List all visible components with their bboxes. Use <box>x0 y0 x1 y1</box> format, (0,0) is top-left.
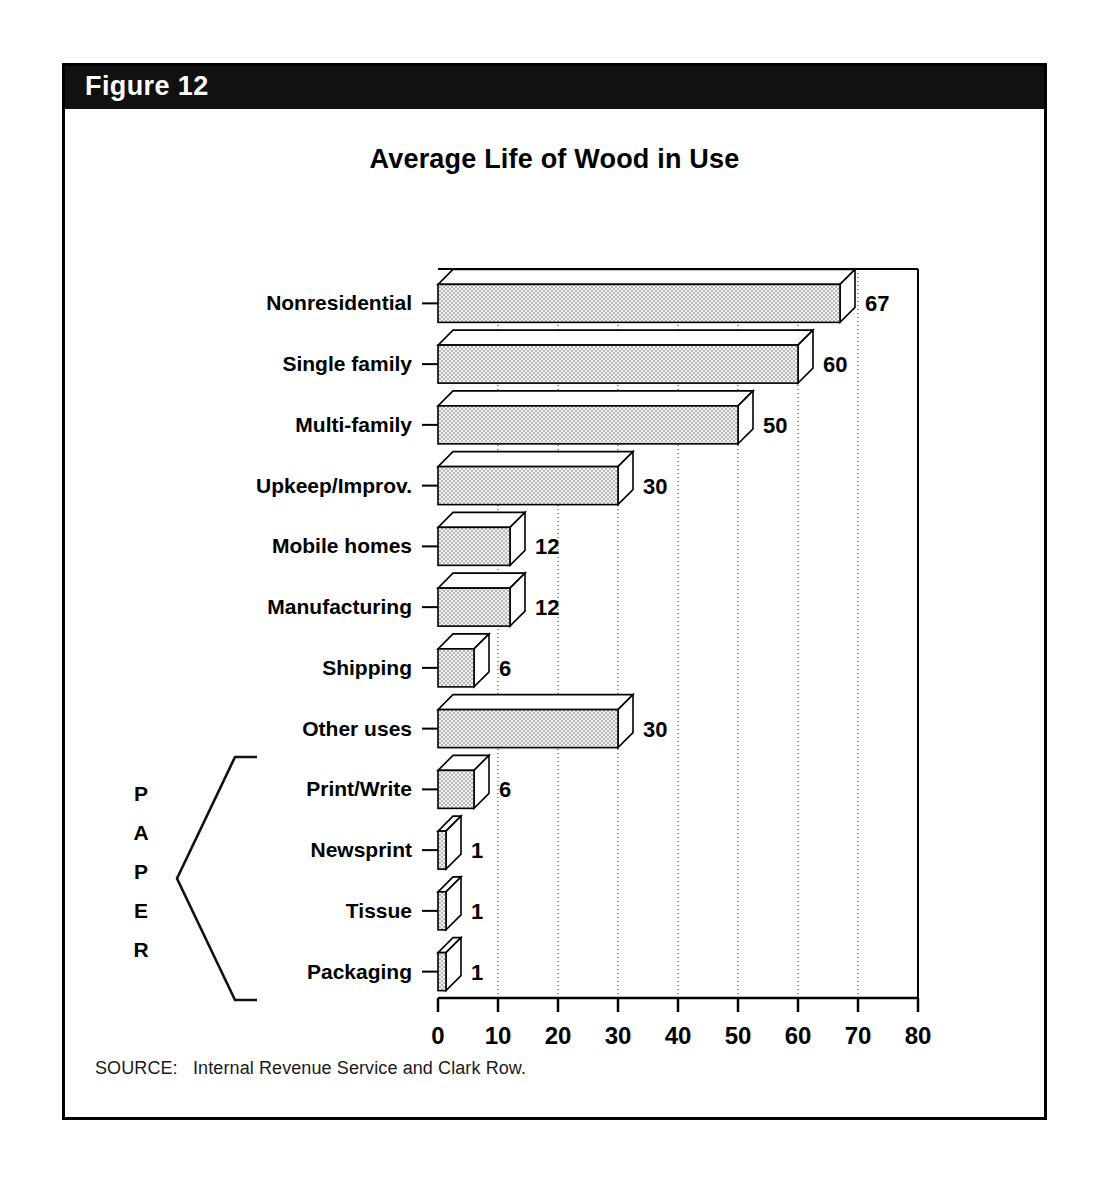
category-label: Manufacturing <box>267 595 412 618</box>
x-tick-label: 70 <box>845 1022 872 1049</box>
bar-value-label: 30 <box>643 717 667 742</box>
bar-value-label: 50 <box>763 413 787 438</box>
category-label: Mobile homes <box>272 534 412 557</box>
bar-chart: Nonresidential67Single family60Multi-fam… <box>65 176 1044 1056</box>
bar-value-label: 67 <box>865 291 889 316</box>
paper-group-bracket <box>177 757 257 1000</box>
bar-value-label: 12 <box>535 534 559 559</box>
category-label: Single family <box>282 352 412 375</box>
bar-value-label: 6 <box>499 656 511 681</box>
bar-group[interactable]: Mobile homes12 <box>272 512 560 565</box>
x-tick-label: 30 <box>605 1022 632 1049</box>
bar-group[interactable]: Single family60 <box>282 330 847 383</box>
x-tick-label: 40 <box>665 1022 692 1049</box>
bar-group[interactable]: Nonresidential67 <box>266 269 889 322</box>
x-tick-label: 50 <box>725 1022 752 1049</box>
category-label: Tissue <box>346 899 412 922</box>
chart-title: Average Life of Wood in Use <box>65 144 1044 175</box>
paper-group-letter: P <box>134 860 148 883</box>
bar-value-label: 1 <box>471 838 483 863</box>
bar-value-label: 12 <box>535 595 559 620</box>
bar-group[interactable]: Packaging1 <box>307 938 483 991</box>
paper-group-letter: P <box>134 782 148 805</box>
figure-number-label: Figure 12 <box>85 71 209 102</box>
x-tick-label: 80 <box>905 1022 932 1049</box>
source-note: SOURCE: Internal Revenue Service and Cla… <box>95 1058 526 1079</box>
figure-frame: Figure 12 Average Life of Wood in Use No… <box>62 63 1047 1120</box>
paper-group-letter: E <box>134 899 148 922</box>
bar-value-label: 1 <box>471 899 483 924</box>
bar-value-label: 30 <box>643 474 667 499</box>
bar-group[interactable]: Newsprint1 <box>310 816 483 869</box>
bar-group[interactable]: Print/Write6 <box>306 755 511 808</box>
bar-value-label: 1 <box>471 960 483 985</box>
bar-group[interactable]: Multi-family50 <box>295 391 787 444</box>
bar-group[interactable]: Other uses30 <box>302 695 667 748</box>
bar-group[interactable]: Tissue1 <box>346 877 483 930</box>
category-label: Shipping <box>322 656 412 679</box>
bar-group[interactable]: Shipping6 <box>322 634 511 687</box>
category-label: Newsprint <box>310 838 412 861</box>
category-label: Multi-family <box>295 413 412 436</box>
paper-group-letter: R <box>133 938 148 961</box>
category-label: Upkeep/Improv. <box>256 474 412 497</box>
category-label: Packaging <box>307 960 412 983</box>
category-label: Nonresidential <box>266 291 412 314</box>
x-tick-label: 0 <box>431 1022 444 1049</box>
category-label: Other uses <box>302 717 412 740</box>
bar-group[interactable]: Upkeep/Improv.30 <box>256 452 667 505</box>
x-tick-label: 60 <box>785 1022 812 1049</box>
figure-header-bar: Figure 12 <box>65 66 1044 109</box>
category-label: Print/Write <box>306 777 412 800</box>
x-tick-label: 10 <box>485 1022 512 1049</box>
bar-group[interactable]: Manufacturing12 <box>267 573 559 626</box>
bar-value-label: 60 <box>823 352 847 377</box>
bar-value-label: 6 <box>499 777 511 802</box>
paper-group-letter: A <box>133 821 148 844</box>
x-tick-label: 20 <box>545 1022 572 1049</box>
